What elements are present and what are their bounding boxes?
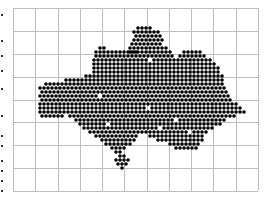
data-point	[108, 74, 112, 78]
cropped-tick-mark	[1, 115, 3, 117]
data-point	[124, 78, 128, 82]
data-point	[76, 78, 80, 82]
data-point	[126, 126, 130, 130]
data-point	[154, 110, 158, 114]
data-point	[136, 38, 140, 42]
data-point	[146, 54, 150, 58]
data-point	[114, 106, 118, 110]
data-point	[188, 142, 192, 146]
data-point	[190, 102, 194, 106]
cropped-tick-mark	[1, 190, 3, 192]
data-point	[172, 78, 176, 82]
data-point	[88, 78, 92, 82]
data-point	[212, 98, 216, 102]
data-point	[166, 118, 170, 122]
data-point	[94, 122, 98, 126]
data-point	[146, 110, 150, 114]
data-point	[132, 62, 136, 66]
data-point	[216, 78, 220, 82]
data-point	[174, 102, 178, 106]
data-point	[54, 94, 58, 98]
data-point	[152, 66, 156, 70]
data-point	[198, 106, 202, 110]
data-point	[200, 130, 204, 134]
data-point	[114, 158, 118, 162]
data-point	[182, 86, 186, 90]
data-point	[112, 130, 116, 134]
data-point	[164, 58, 168, 62]
data-point	[230, 102, 234, 106]
data-point	[94, 106, 98, 110]
data-point	[180, 74, 184, 78]
data-point	[180, 138, 184, 142]
data-point	[86, 126, 90, 130]
data-point	[76, 98, 80, 102]
data-point	[118, 158, 122, 162]
data-point	[194, 54, 198, 58]
data-point	[84, 98, 88, 102]
data-point	[148, 82, 152, 86]
data-point	[98, 102, 102, 106]
data-point	[124, 142, 128, 146]
data-point	[120, 142, 124, 146]
data-point	[188, 78, 192, 82]
data-point	[84, 90, 88, 94]
data-point	[186, 94, 190, 98]
data-point	[96, 114, 100, 118]
data-point	[190, 146, 194, 150]
data-point	[152, 114, 156, 118]
data-point	[64, 90, 68, 94]
data-point	[152, 98, 156, 102]
data-point	[130, 54, 134, 58]
data-point	[234, 102, 238, 106]
data-point	[102, 110, 106, 114]
data-point	[144, 26, 148, 30]
data-point	[202, 122, 206, 126]
data-point	[126, 86, 130, 90]
data-point	[136, 78, 140, 82]
data-point	[210, 126, 214, 130]
data-point	[122, 106, 126, 110]
data-point	[122, 126, 126, 130]
data-point	[200, 58, 204, 62]
data-point	[148, 90, 152, 94]
data-point	[138, 126, 142, 130]
data-point	[198, 94, 202, 98]
data-point	[200, 114, 204, 118]
data-point	[168, 130, 172, 134]
data-point	[210, 102, 214, 106]
data-point	[62, 106, 66, 110]
data-point	[118, 146, 122, 150]
data-point	[176, 70, 180, 74]
data-point	[184, 130, 188, 134]
data-point	[42, 94, 46, 98]
data-point	[172, 82, 176, 86]
data-point	[86, 94, 90, 98]
data-point	[166, 106, 170, 110]
data-point	[156, 58, 160, 62]
data-point	[92, 66, 96, 70]
data-point	[196, 114, 200, 118]
data-point	[218, 110, 222, 114]
data-point	[116, 70, 120, 74]
data-point	[180, 130, 184, 134]
data-point	[130, 94, 134, 98]
data-point	[134, 106, 138, 110]
data-point	[118, 154, 122, 158]
data-point	[184, 134, 188, 138]
data-point	[100, 82, 104, 86]
data-point	[116, 98, 120, 102]
data-point	[80, 82, 84, 86]
data-point	[172, 74, 176, 78]
data-point	[204, 62, 208, 66]
data-point	[114, 118, 118, 122]
cropped-tick-mark	[1, 180, 3, 182]
data-point	[212, 70, 216, 74]
data-point	[178, 54, 182, 58]
data-point	[192, 70, 196, 74]
data-point	[106, 110, 110, 114]
data-point	[178, 126, 182, 130]
data-point	[54, 106, 58, 110]
data-point	[108, 58, 112, 62]
data-point	[164, 46, 168, 50]
